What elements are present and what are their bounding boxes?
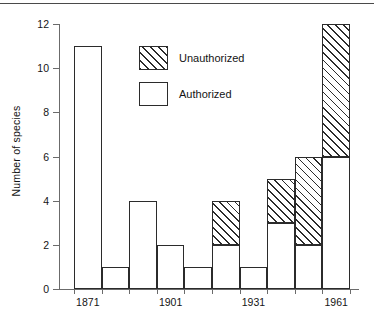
legend-label-unauthorized: Unauthorized: [179, 52, 244, 64]
x-axis-tick-label: 1901: [149, 297, 193, 308]
x-axis-tick: [240, 289, 241, 294]
bar-segment-authorized: [102, 267, 130, 289]
legend-item-authorized: Authorized: [139, 82, 244, 106]
y-axis-line: [59, 24, 60, 290]
x-axis-tick: [295, 289, 296, 294]
y-axis-tick-label: 12: [9, 19, 49, 30]
y-axis-tick-label: 10: [9, 63, 49, 74]
y-axis-tick: [53, 157, 59, 158]
bar-segment-authorized: [212, 245, 240, 289]
bar-segment-authorized: [157, 245, 185, 289]
chart-legend: Unauthorized Authorized: [139, 46, 244, 118]
legend-label-authorized: Authorized: [179, 88, 232, 100]
legend-swatch-unauthorized-icon: [139, 46, 168, 70]
legend-swatch-authorized-icon: [139, 82, 168, 106]
bar-segment-authorized: [129, 201, 157, 289]
bar-segment-authorized: [184, 267, 212, 289]
y-axis-tick: [53, 289, 59, 290]
y-axis-tick-label: 0: [9, 284, 49, 295]
x-axis-line: [59, 289, 359, 290]
bar-segment-unauthorized: [267, 179, 295, 223]
x-axis-tick: [157, 289, 158, 294]
x-axis-tick: [74, 289, 75, 294]
y-axis-tick: [53, 24, 59, 25]
y-axis-tick: [53, 112, 59, 113]
x-axis-tick-label: 1871: [66, 297, 110, 308]
x-axis-tick: [350, 289, 351, 294]
bar-segment-unauthorized: [295, 157, 323, 245]
x-axis-tick: [102, 289, 103, 294]
bar-segment-authorized: [322, 157, 350, 290]
y-axis-title: Number of species: [10, 91, 22, 211]
x-axis-tick: [212, 289, 213, 294]
bar-segment-authorized: [267, 223, 295, 289]
plot-area: 024681012 1871190119311961 Number of spe…: [0, 0, 374, 321]
y-axis-tick: [53, 201, 59, 202]
bar-segment-unauthorized: [322, 24, 350, 157]
x-axis-tick-label: 1931: [231, 297, 275, 308]
figure-chart: 024681012 1871190119311961 Number of spe…: [0, 0, 374, 321]
x-axis-tick: [184, 289, 185, 294]
y-axis-tick: [53, 68, 59, 69]
bar-segment-authorized: [295, 245, 323, 289]
x-axis-tick: [267, 289, 268, 294]
y-axis-tick: [53, 245, 59, 246]
x-axis-tick: [129, 289, 130, 294]
legend-item-unauthorized: Unauthorized: [139, 46, 244, 70]
bar-segment-authorized: [74, 46, 102, 289]
bar-segment-authorized: [240, 267, 268, 289]
y-axis-tick-label: 2: [9, 240, 49, 251]
bar-segment-unauthorized: [212, 201, 240, 245]
x-axis-tick: [322, 289, 323, 294]
x-axis-tick-label: 1961: [314, 297, 358, 308]
